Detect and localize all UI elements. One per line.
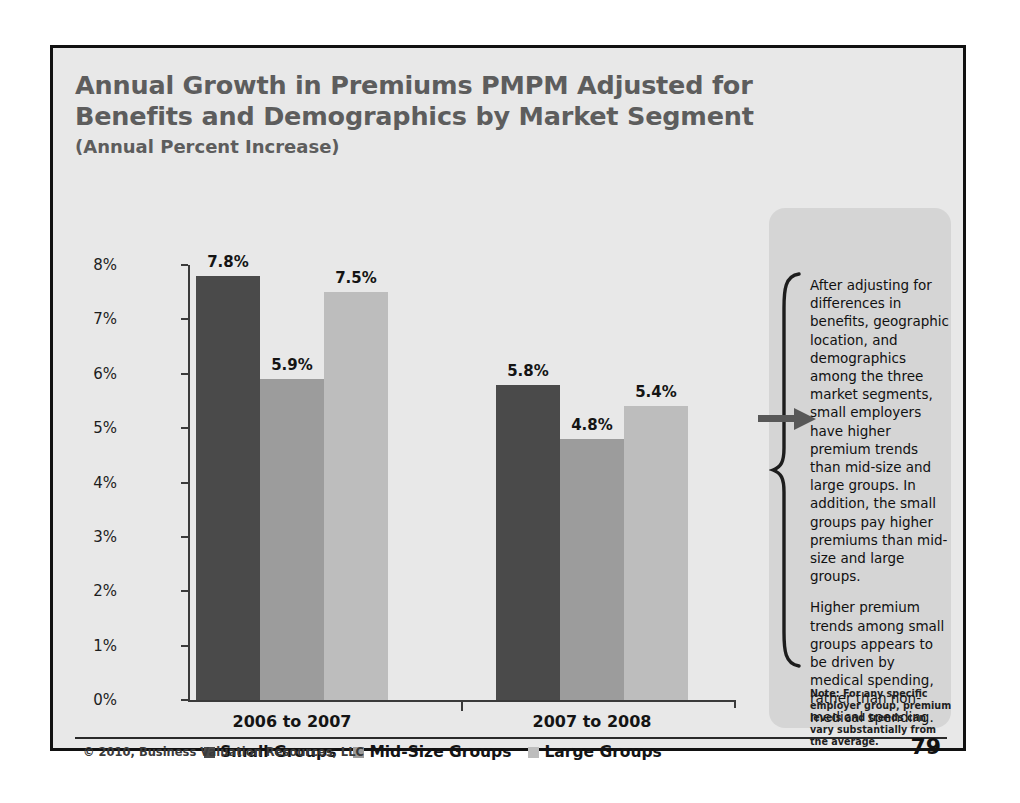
y-axis-tick-label: 8% <box>57 256 117 274</box>
bar-chart: 0%1%2%3%4%5%6%7%8% 7.8%5.9%7.5%5.8%4.8%5… <box>113 218 753 718</box>
y-axis-tick-label: 4% <box>57 474 117 492</box>
page-title-line-2: Benefits and Demographics by Market Segm… <box>75 101 755 132</box>
y-axis-line <box>188 265 190 700</box>
legend-item: Large Groups <box>528 743 661 761</box>
y-axis-tick-mark <box>181 590 188 592</box>
copyright-text: © 2010, Business Valuation Resources, LL… <box>83 745 364 759</box>
y-axis-tick-mark <box>181 645 188 647</box>
bar <box>196 276 260 700</box>
page-title-line-1: Annual Growth in Premiums PMPM Adjusted … <box>75 70 755 101</box>
y-axis-tick-mark <box>181 536 188 538</box>
footer-divider <box>75 737 947 739</box>
legend-item: Mid-Size Groups <box>353 743 511 761</box>
y-axis-tick-mark <box>181 373 188 375</box>
legend-label: Large Groups <box>544 743 661 761</box>
y-axis-tick-label: 2% <box>57 582 117 600</box>
bar <box>560 439 624 700</box>
y-axis-tick-label: 1% <box>57 637 117 655</box>
y-axis-tick-label: 7% <box>57 310 117 328</box>
slide-canvas: Annual Growth in Premiums PMPM Adjusted … <box>50 45 966 751</box>
x-axis-category-label: 2006 to 2007 <box>166 712 418 731</box>
bar-value-label: 5.9% <box>248 356 336 374</box>
y-axis-tick-label: 0% <box>57 691 117 709</box>
bar-value-label: 5.8% <box>484 362 572 380</box>
y-axis-tick-mark <box>181 427 188 429</box>
y-axis-tick-label: 5% <box>57 419 117 437</box>
y-axis-tick-mark <box>181 699 188 701</box>
x-axis-mid-tick <box>461 702 463 711</box>
commentary-text: After adjusting for differences in benef… <box>810 276 950 739</box>
y-axis-tick-mark <box>181 318 188 320</box>
y-axis-tick-label: 6% <box>57 365 117 383</box>
x-axis-category-label: 2007 to 2008 <box>466 712 718 731</box>
bar <box>260 379 324 700</box>
x-axis-end-tick <box>734 700 736 708</box>
y-axis-tick-mark <box>181 482 188 484</box>
bar-value-label: 5.4% <box>612 383 700 401</box>
legend-label: Mid-Size Groups <box>369 743 511 761</box>
bar <box>624 406 688 700</box>
page-subtitle: (Annual Percent Increase) <box>75 135 755 159</box>
curly-brace-icon <box>769 270 803 670</box>
commentary-paragraph-1: After adjusting for differences in benef… <box>810 276 950 585</box>
legend-swatch-icon <box>528 747 539 758</box>
bar-value-label: 7.5% <box>312 269 400 287</box>
bar <box>324 292 388 700</box>
y-axis-tick-label: 3% <box>57 528 117 546</box>
bar-value-label: 4.8% <box>548 416 636 434</box>
title-block: Annual Growth in Premiums PMPM Adjusted … <box>75 70 755 159</box>
page-number: 79 <box>910 734 941 759</box>
bar-value-label: 7.8% <box>184 253 272 271</box>
